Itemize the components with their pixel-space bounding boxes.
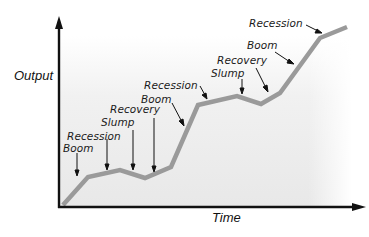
cycle3-slump-label: Slump [211, 68, 245, 79]
cycle1-boom-label: Boom [63, 143, 94, 154]
business-cycle-diagram: Output Time Recovery Slump Recession Boo… [0, 0, 369, 237]
cycle1-recovery-label: Recovery [110, 104, 160, 115]
x-axis-arrow-icon [352, 203, 366, 211]
cycle3-recession-label: Recession [249, 18, 303, 29]
diagram-graphics [0, 0, 369, 237]
cycle1-recession-label: Recession [67, 131, 121, 142]
cycle2-recession-label: Recession [144, 80, 198, 91]
cycle3-boom-label: Boom [247, 40, 278, 51]
cycle1-slump-label: Slump [101, 117, 135, 128]
x-axis-label: Time [212, 211, 241, 224]
y-axis-label: Output [14, 69, 53, 82]
cycle2-boom-label: Boom [141, 94, 172, 105]
y-axis-arrow-icon [55, 16, 63, 29]
cycle3-recovery-label: Recovery [217, 55, 267, 66]
